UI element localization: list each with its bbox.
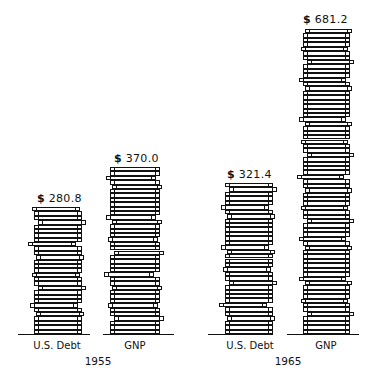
coin — [225, 196, 273, 200]
coin — [303, 184, 350, 188]
coin — [36, 255, 84, 259]
coin — [299, 277, 346, 281]
coin — [303, 33, 350, 37]
baseline-debt-1965 — [208, 334, 273, 335]
coin — [225, 219, 273, 223]
coin-stack-chart: $ 280.8$ 370.0$ 321.4$ 681.2U.S. DebtGNP… — [0, 0, 374, 377]
coin — [34, 229, 82, 233]
coin — [225, 298, 273, 302]
coin — [303, 201, 350, 205]
baseline-debt-1955 — [18, 334, 90, 335]
coin — [303, 100, 350, 104]
coin — [110, 321, 160, 325]
coin — [223, 267, 271, 271]
coin — [225, 290, 273, 294]
coin — [303, 73, 350, 77]
coin — [299, 117, 346, 121]
year-label: 1965 — [268, 355, 308, 367]
coin — [110, 277, 160, 281]
category-label: GNP — [115, 340, 155, 351]
coin — [303, 51, 350, 55]
coin — [34, 246, 82, 250]
coin — [303, 42, 350, 46]
coin — [303, 113, 350, 117]
coin — [34, 281, 82, 285]
coin — [34, 225, 82, 229]
coin — [110, 330, 160, 334]
value-label-gnp-1965: $ 681.2 — [303, 13, 348, 26]
coin — [110, 246, 160, 250]
coin — [34, 325, 82, 329]
coin — [34, 251, 82, 255]
coin — [32, 273, 80, 277]
coin — [110, 198, 160, 202]
coin — [301, 299, 348, 303]
currency-symbol: $ — [227, 168, 235, 181]
coin — [221, 245, 269, 249]
coin — [110, 294, 160, 298]
coin — [305, 29, 352, 33]
coin — [106, 176, 156, 180]
coin — [303, 179, 350, 183]
coin — [110, 255, 160, 259]
coin — [307, 60, 354, 64]
coin — [219, 303, 267, 307]
coin — [110, 167, 160, 171]
coin — [110, 202, 160, 206]
coin — [34, 277, 82, 281]
coin — [305, 122, 352, 126]
coin — [303, 254, 350, 258]
coin — [305, 281, 352, 285]
coin — [225, 307, 273, 311]
coin — [114, 251, 164, 255]
coin — [112, 220, 162, 224]
coin — [225, 201, 273, 205]
coin — [30, 303, 78, 307]
coin — [229, 281, 277, 285]
coin — [225, 241, 273, 245]
coin — [303, 91, 350, 95]
coin — [36, 312, 84, 316]
coin — [225, 232, 273, 236]
coin — [225, 330, 273, 334]
coin — [34, 321, 82, 325]
coin — [110, 171, 160, 175]
category-label: U.S. Debt — [220, 340, 280, 351]
coin — [110, 268, 160, 272]
coin — [303, 321, 350, 325]
coin — [225, 325, 273, 329]
coin — [307, 153, 354, 157]
coin — [34, 216, 82, 220]
coin — [303, 193, 350, 197]
coin — [110, 308, 160, 312]
value-label-gnp-1955: $ 370.0 — [114, 152, 159, 165]
coin — [34, 260, 82, 264]
coin — [34, 268, 82, 272]
coin — [34, 299, 82, 303]
coin — [110, 211, 160, 215]
coin — [303, 157, 350, 161]
coin — [225, 227, 273, 231]
coin — [303, 144, 350, 148]
coin — [303, 109, 350, 113]
coin — [303, 69, 350, 73]
coin — [303, 285, 350, 289]
coin — [225, 276, 273, 280]
coin — [106, 215, 156, 219]
coin — [110, 207, 160, 211]
coin — [34, 290, 82, 294]
coin — [303, 56, 350, 60]
coin — [28, 242, 76, 246]
coin — [225, 236, 273, 240]
currency-symbol: $ — [114, 152, 122, 165]
coin — [303, 126, 350, 130]
coin — [303, 325, 350, 329]
coin — [110, 242, 160, 246]
coin — [303, 228, 350, 232]
coin — [303, 259, 350, 263]
coin — [303, 131, 350, 135]
coin — [32, 207, 80, 211]
coin — [303, 272, 350, 276]
coin — [34, 308, 82, 312]
value-label-debt-1965: $ 321.4 — [227, 168, 272, 181]
